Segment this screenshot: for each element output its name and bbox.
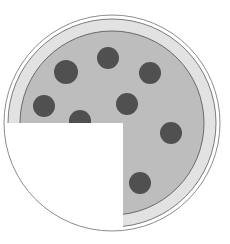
pepperoni-7 (160, 122, 182, 144)
pepperoni-1 (54, 60, 78, 84)
pizza-diagram (0, 0, 230, 244)
pepperoni-2 (97, 47, 119, 69)
pepperoni-8 (129, 172, 151, 194)
pepperoni-4 (33, 95, 55, 117)
pepperoni-3 (139, 62, 161, 84)
pizza-illustration (0, 0, 230, 244)
missing-quarter-slice (6, 123, 123, 244)
pepperoni-5 (116, 93, 138, 115)
